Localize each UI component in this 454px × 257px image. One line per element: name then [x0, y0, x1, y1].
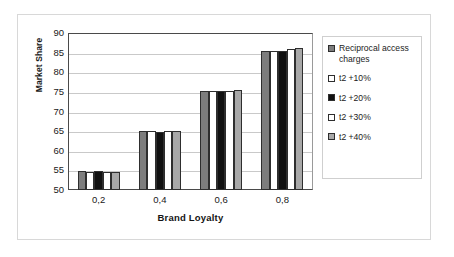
legend-item: t2 +40% — [328, 132, 417, 143]
x-tick-label: 0,2 — [74, 194, 124, 205]
legend-item: t2 +10% — [328, 73, 417, 84]
legend-swatch-icon — [328, 75, 335, 82]
y-tick-label: 65 — [36, 126, 64, 136]
legend-label: t2 +10% — [339, 73, 371, 84]
legend-label: t2 +30% — [339, 112, 371, 123]
gridline — [69, 152, 312, 153]
y-tick-label: 75 — [36, 87, 64, 97]
legend-item: t2 +30% — [328, 112, 417, 123]
x-axis-title: Brand Loyalty — [68, 212, 313, 223]
y-tick-label: 60 — [36, 146, 64, 156]
y-tick-label: 50 — [36, 185, 64, 195]
legend-label: t2 +40% — [339, 132, 371, 143]
legend-label: t2 +20% — [339, 93, 371, 104]
y-tick-label: 55 — [36, 165, 64, 175]
x-tick-label: 0,4 — [135, 194, 185, 205]
gridline — [69, 113, 312, 114]
chart-legend: Reciprocal access chargest2 +10%t2 +20%t… — [322, 36, 422, 179]
gridlines — [69, 34, 312, 189]
y-tick-label: 90 — [36, 28, 64, 38]
legend-label: Reciprocal access charges — [339, 43, 409, 64]
x-tick-label: 0,6 — [196, 194, 246, 205]
y-tick-label: 70 — [36, 107, 64, 117]
gridline — [69, 132, 312, 133]
gridline — [69, 171, 312, 172]
legend-item: t2 +20% — [328, 93, 417, 104]
legend-swatch-icon — [328, 94, 335, 101]
legend-swatch-icon — [328, 45, 335, 52]
x-tick-label: 0,8 — [257, 194, 307, 205]
legend-swatch-icon — [328, 133, 335, 140]
bar-chart-figure: Market Share 505560657075808590 0,20,40,… — [0, 0, 454, 257]
gridline — [69, 54, 312, 55]
gridline — [69, 73, 312, 74]
y-tick-label: 80 — [36, 67, 64, 77]
legend-swatch-icon — [328, 114, 335, 121]
plot-area — [68, 33, 313, 190]
gridline — [69, 93, 312, 94]
legend-item: Reciprocal access charges — [328, 43, 417, 64]
y-tick-label: 85 — [36, 48, 64, 58]
x-axis-tick-labels: 0,20,40,60,8 — [68, 194, 313, 210]
y-axis-tick-labels: 505560657075808590 — [36, 33, 64, 190]
